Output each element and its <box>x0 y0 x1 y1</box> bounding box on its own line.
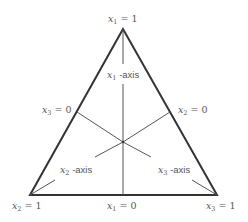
vertex-label-top: x1 = 1 <box>108 14 138 26</box>
vertex-label-bottom-left: x2 = 1 <box>12 201 42 213</box>
axis-label-x1: x1 -axis <box>107 70 139 82</box>
simplex-diagram <box>0 0 248 222</box>
x3-zero-perpendicular <box>77 112 123 142</box>
axis-label-x2: x2 -axis <box>60 165 92 177</box>
edge-label-bottom: x1 = 0 <box>107 201 137 213</box>
axis-label-x3: x3 -axis <box>158 165 190 177</box>
edge-label-right: x2 = 0 <box>178 105 208 117</box>
x3-axis-upper <box>123 142 151 157</box>
edge-label-left: x3 = 0 <box>42 105 72 117</box>
x2-axis-upper <box>95 142 123 157</box>
vertex-label-bottom-right: x3 = 1 <box>206 201 236 213</box>
x2-zero-perpendicular <box>123 112 170 142</box>
centroid-point <box>122 141 124 143</box>
